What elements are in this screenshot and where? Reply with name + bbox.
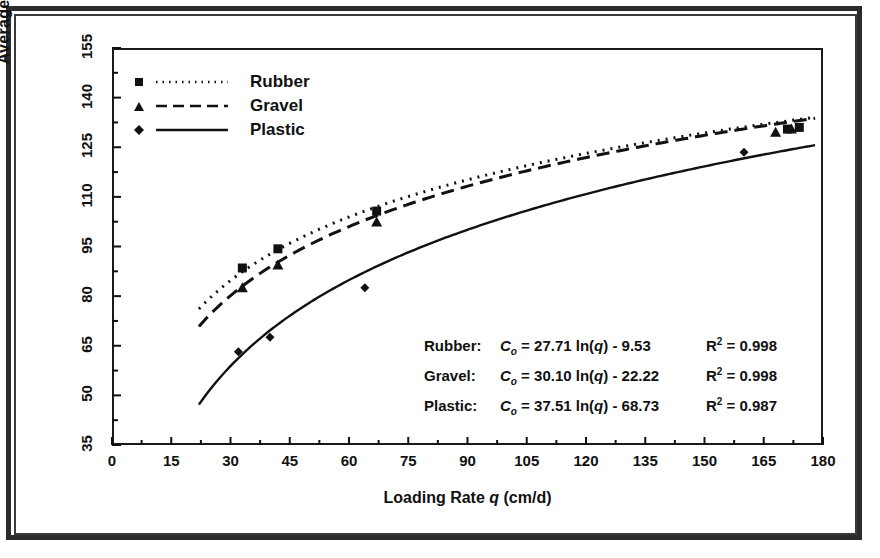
data-point-rubber (372, 207, 381, 216)
legend: Rubber Gravel Plastic (130, 70, 310, 142)
data-point-rubber (273, 244, 282, 253)
solid-line-swatch (156, 123, 228, 137)
r-label: R (706, 367, 717, 384)
y-tick-label: 155 (78, 27, 95, 67)
y-tick-label: 125 (78, 126, 95, 166)
x-tick-label: 0 (92, 452, 132, 469)
eq-rhs: = 37.51 ln( (517, 397, 594, 414)
equation-r2-gravel: R2 = 0.998 (706, 366, 816, 384)
equation-body-rubber: Co = 27.71 ln(q) - 9.53 (500, 337, 706, 357)
data-point-plastic (740, 148, 749, 157)
y-axis-title-main: Average (0, 0, 12, 64)
x-axis-title-units: (cm/d) (499, 489, 551, 506)
dotted-line-swatch (156, 75, 228, 89)
eq-var: q (594, 337, 603, 354)
equation-name-plastic: Plastic: (424, 397, 500, 414)
x-tick-label: 75 (388, 452, 428, 469)
r-value: = 0.998 (722, 367, 777, 384)
r-value: = 0.987 (722, 397, 777, 414)
trend-line-gravel (199, 118, 815, 326)
equation-row-plastic: Plastic: Co = 37.51 ln(q) - 68.73 R2 = 0… (424, 396, 816, 426)
square-marker (130, 76, 148, 88)
r-value: = 0.998 (722, 337, 777, 354)
x-tick-label: 15 (151, 452, 191, 469)
x-axis-title: Loading Rate q (cm/d) (112, 489, 823, 507)
eq-rhs: = 30.10 ln( (517, 367, 594, 384)
x-tick-label: 105 (507, 452, 547, 469)
eq-var: q (594, 397, 603, 414)
x-tick-label: 90 (448, 452, 488, 469)
legend-item-rubber: Rubber (130, 70, 310, 94)
x-tick-label: 30 (211, 452, 251, 469)
eq-rhs-tail: ) - 68.73 (603, 397, 659, 414)
x-tick-label: 120 (566, 452, 606, 469)
equation-body-plastic: Co = 37.51 ln(q) - 68.73 (500, 397, 706, 417)
legend-label-gravel: Gravel (250, 96, 303, 116)
x-tick-label: 165 (744, 452, 784, 469)
equation-row-gravel: Gravel: Co = 30.10 ln(q) - 22.22 R2 = 0.… (424, 366, 816, 396)
x-tick-label: 150 (685, 452, 725, 469)
trend-line-rubber (199, 117, 815, 309)
legend-label-plastic: Plastic (250, 120, 305, 140)
x-tick-label: 45 (270, 452, 310, 469)
data-point-rubber (238, 264, 247, 273)
y-tick-label: 140 (78, 76, 95, 116)
eq-lhs: C (500, 397, 511, 414)
equation-r2-rubber: R2 = 0.998 (706, 336, 816, 354)
eq-rhs-tail: ) - 9.53 (603, 337, 651, 354)
triangle-marker (130, 100, 148, 112)
diamond-marker (130, 124, 148, 136)
equation-annotations: Rubber: Co = 27.71 ln(q) - 9.53 R2 = 0.9… (424, 336, 816, 426)
figure-container: Average Co (mg/l) Loading Rate q (cm/d) … (0, 0, 880, 558)
legend-item-gravel: Gravel (130, 94, 310, 118)
equation-r2-plastic: R2 = 0.987 (706, 396, 816, 414)
y-tick-label: 35 (78, 424, 95, 464)
legend-item-plastic: Plastic (130, 118, 310, 142)
eq-lhs: C (500, 367, 511, 384)
y-axis-title: Average Co (mg/l) (0, 0, 15, 155)
equation-row-rubber: Rubber: Co = 27.71 ln(q) - 9.53 R2 = 0.9… (424, 336, 816, 366)
y-tick-label: 80 (78, 275, 95, 315)
r-label: R (706, 397, 717, 414)
eq-rhs: = 27.71 ln( (517, 337, 594, 354)
eq-rhs-tail: ) - 22.22 (603, 367, 659, 384)
legend-label-rubber: Rubber (250, 72, 310, 92)
x-tick-label: 180 (803, 452, 843, 469)
y-tick-label: 50 (78, 374, 95, 414)
eq-lhs: C (500, 337, 511, 354)
equation-name-rubber: Rubber: (424, 337, 500, 354)
eq-var: q (594, 367, 603, 384)
equation-name-gravel: Gravel: (424, 367, 500, 384)
data-point-rubber (795, 123, 804, 132)
dashed-line-swatch (156, 99, 228, 113)
y-tick-label: 65 (78, 324, 95, 364)
x-tick-label: 135 (625, 452, 665, 469)
equation-body-gravel: Co = 30.10 ln(q) - 22.22 (500, 367, 706, 387)
y-tick-label: 95 (78, 225, 95, 265)
x-axis-title-main: Loading Rate (383, 489, 489, 506)
y-tick-label: 110 (78, 175, 95, 215)
data-point-plastic (360, 283, 369, 292)
r-label: R (706, 337, 717, 354)
x-axis-title-var: q (489, 489, 499, 506)
x-tick-label: 60 (329, 452, 369, 469)
data-point-gravel (770, 127, 781, 137)
